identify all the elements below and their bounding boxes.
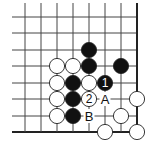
stones-layer: 12 — [49, 42, 144, 139]
black-stone — [65, 108, 80, 123]
white-stone — [49, 108, 64, 123]
white-stone — [129, 91, 144, 106]
go-board-diagram: 12 AB — [0, 0, 157, 156]
white-stone: 2 — [81, 91, 96, 106]
white-stone — [65, 58, 80, 73]
move-number-label: 1 — [102, 76, 109, 90]
white-stone — [113, 108, 128, 123]
black-stone: 1 — [97, 75, 112, 90]
svg-text:A: A — [101, 92, 110, 107]
black-stone — [113, 58, 128, 73]
move-number-label: 2 — [86, 92, 93, 106]
black-stone — [81, 42, 96, 57]
point-marker-a: A — [100, 92, 111, 107]
white-stone — [97, 124, 112, 139]
white-stone — [49, 58, 64, 73]
white-stone — [129, 124, 144, 139]
white-stone — [49, 91, 64, 106]
black-stone — [81, 58, 96, 73]
point-marker-b: B — [84, 109, 95, 124]
svg-text:B: B — [85, 109, 94, 124]
white-stone — [81, 75, 96, 90]
black-stone — [65, 91, 80, 106]
white-stone — [49, 75, 64, 90]
black-stone — [65, 75, 80, 90]
